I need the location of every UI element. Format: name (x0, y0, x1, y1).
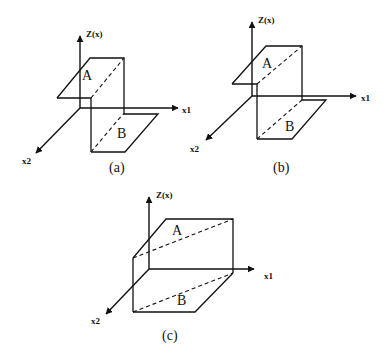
x2-axis-label-b: x2 (190, 145, 199, 154)
plane-label-A-c: A (172, 224, 182, 238)
x2-axis-a (36, 108, 80, 153)
caption-a: (a) (109, 161, 125, 175)
panel-b (206, 22, 356, 140)
x1-axis-label-b: x1 (361, 94, 370, 103)
caption-c: (c) (162, 329, 178, 343)
x2-axis-label-a: x2 (22, 157, 31, 166)
z-axis-label-a: Z(x) (86, 30, 103, 39)
figure: Z(x) x1 x2 A B (a) Z(x) x1 x2 A B (b) Z(… (0, 0, 387, 364)
panel-a (36, 36, 178, 153)
plane-label-B-c: B (177, 294, 186, 308)
plane-label-A-b: A (262, 57, 272, 71)
plane-label-A-a: A (82, 69, 92, 83)
x2-axis-b (206, 96, 252, 140)
x2-axis-c (106, 269, 149, 314)
x1-axis-label-c: x1 (264, 272, 273, 281)
x1-axis-label-a: x1 (182, 106, 191, 115)
x2-axis-label-c: x2 (91, 317, 100, 326)
plane-label-B-a: B (117, 127, 126, 141)
plane-label-B-b: B (285, 120, 294, 134)
caption-b: (b) (273, 161, 289, 175)
z-axis-label-c: Z(x) (156, 191, 173, 200)
axes-b (206, 22, 356, 140)
z-axis-label-b: Z(x) (258, 16, 275, 25)
axes-a (36, 36, 178, 153)
diagram-drawing (0, 0, 387, 364)
